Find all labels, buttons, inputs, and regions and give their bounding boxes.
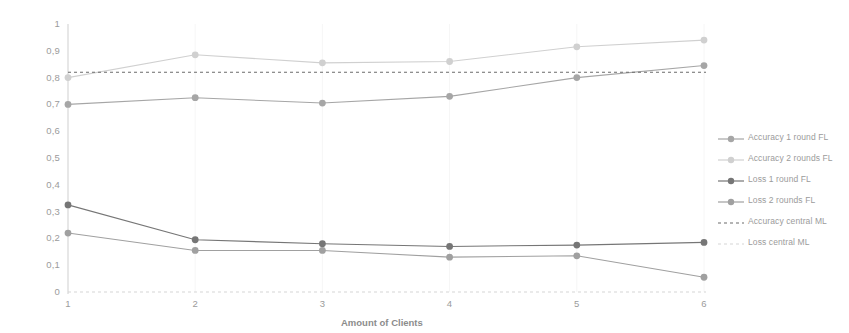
legend-item-5[interactable]: Loss central ML <box>718 231 849 252</box>
series-line-3 <box>68 233 704 277</box>
y-tick-label: 0,5 <box>20 152 60 163</box>
data-point <box>192 51 199 58</box>
legend-label: Accuracy central ML <box>748 216 827 226</box>
data-point <box>701 62 708 69</box>
data-point <box>701 239 708 246</box>
legend-label: Accuracy 2 rounds FL <box>748 153 833 163</box>
x-tick-label: 3 <box>307 298 337 309</box>
y-tick-label: 0,7 <box>20 98 60 109</box>
data-point <box>319 100 326 107</box>
data-point <box>573 252 580 259</box>
data-point <box>446 58 453 65</box>
data-point <box>701 274 708 281</box>
data-point <box>573 43 580 50</box>
y-tick-label: 0,6 <box>20 125 60 136</box>
legend-label: Loss central ML <box>748 237 810 247</box>
y-tick-label: 0,8 <box>20 72 60 83</box>
chart-legend: Accuracy 1 round FLAccuracy 2 rounds FLL… <box>718 126 849 252</box>
legend-label: Loss 2 rounds FL <box>748 195 815 205</box>
data-point <box>65 230 72 237</box>
series-line-2 <box>68 205 704 247</box>
chart-container: 00,10,20,30,40,50,60,70,80,91 123456 Amo… <box>0 0 849 333</box>
legend-swatch-icon <box>718 173 744 185</box>
legend-swatch-icon <box>718 131 744 143</box>
data-point <box>446 93 453 100</box>
y-tick-label: 0,1 <box>20 259 60 270</box>
series-group <box>65 37 708 292</box>
legend-swatch-icon <box>718 215 744 227</box>
x-tick-label: 4 <box>435 298 465 309</box>
y-tick-label: 0,9 <box>20 45 60 56</box>
data-point <box>65 202 72 209</box>
data-point <box>192 247 199 254</box>
y-tick-label: 0,4 <box>20 179 60 190</box>
legend-label: Accuracy 1 round FL <box>748 132 828 142</box>
x-tick-label: 2 <box>180 298 210 309</box>
x-tick-label: 6 <box>689 298 719 309</box>
legend-item-2[interactable]: Loss 1 round FL <box>718 168 849 189</box>
data-point <box>65 74 72 81</box>
y-tick-label: 1 <box>20 18 60 29</box>
legend-label: Loss 1 round FL <box>748 174 811 184</box>
y-tick-label: 0,3 <box>20 206 60 217</box>
legend-item-1[interactable]: Accuracy 2 rounds FL <box>718 147 849 168</box>
data-point <box>701 37 708 44</box>
data-point <box>319 247 326 254</box>
data-point <box>192 94 199 101</box>
data-point <box>319 59 326 66</box>
data-point <box>65 101 72 108</box>
legend-item-0[interactable]: Accuracy 1 round FL <box>718 126 849 147</box>
y-tick-label: 0 <box>20 286 60 297</box>
data-point <box>573 74 580 81</box>
data-point <box>446 243 453 250</box>
data-point <box>319 240 326 247</box>
legend-swatch-icon <box>718 236 744 248</box>
x-axis-title: Amount of Clients <box>341 317 423 328</box>
data-point <box>573 242 580 249</box>
series-line-0 <box>68 66 704 105</box>
legend-swatch-icon <box>718 152 744 164</box>
data-point <box>446 254 453 261</box>
y-tick-label: 0,2 <box>20 232 60 243</box>
data-point <box>192 236 199 243</box>
x-tick-label: 1 <box>53 298 83 309</box>
x-tick-label: 5 <box>562 298 592 309</box>
legend-item-4[interactable]: Accuracy central ML <box>718 210 849 231</box>
legend-swatch-icon <box>718 194 744 206</box>
legend-item-3[interactable]: Loss 2 rounds FL <box>718 189 849 210</box>
